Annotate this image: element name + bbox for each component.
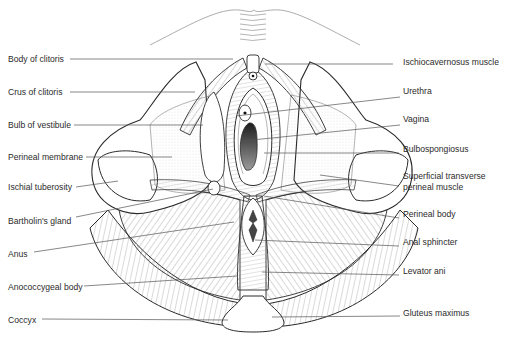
label-ischial-tuberosity: Ischial tuberosity [8,182,73,192]
label-bulb-of-vestibule: Bulb of vestibule [8,120,71,130]
labels-right: Ischiocavernosus muscleUrethraVaginaBulb… [403,57,499,318]
label-superficial-transverse-perineal-muscle-line2: perineal muscle [403,182,463,192]
label-levator-ani: Levator ani [403,266,446,276]
label-superficial-transverse-perineal-muscle: Superficial transverse [403,171,486,181]
label-gluteus-maximus: Gluteus maximus [403,308,469,318]
label-coccyx: Coccyx [8,315,37,325]
label-body-of-clitoris: Body of clitoris [8,54,64,64]
label-bartholins-gland: Bartholin's gland [8,216,71,226]
label-anococcygeal-body: Anococcygeal body [8,282,83,292]
labels-left: Body of clitorisCrus of clitorisBulb of … [8,54,83,325]
label-crus-of-clitoris: Crus of clitoris [8,87,62,97]
label-perineal-membrane: Perineal membrane [8,152,83,162]
bartholins-gland [208,181,220,195]
clitoris-body [247,55,259,73]
label-anus: Anus [8,249,28,259]
label-bulbospongiosus: Bulbospongiosus [403,144,468,154]
label-anal-sphincter: Anal sphincter [403,237,458,247]
anatomy-illustration: Body of clitorisCrus of clitorisBulb of … [0,0,506,339]
label-vagina: Vagina [403,114,429,124]
label-perineal-body: Perineal body [403,209,456,219]
perineum-diagram: Body of clitorisCrus of clitorisBulb of … [0,0,506,339]
pubic-skin-folds [240,14,266,41]
abdomen-contour [150,10,360,45]
label-urethra: Urethra [403,86,432,96]
label-ischiocavernosus-muscle: Ischiocavernosus muscle [403,57,499,67]
